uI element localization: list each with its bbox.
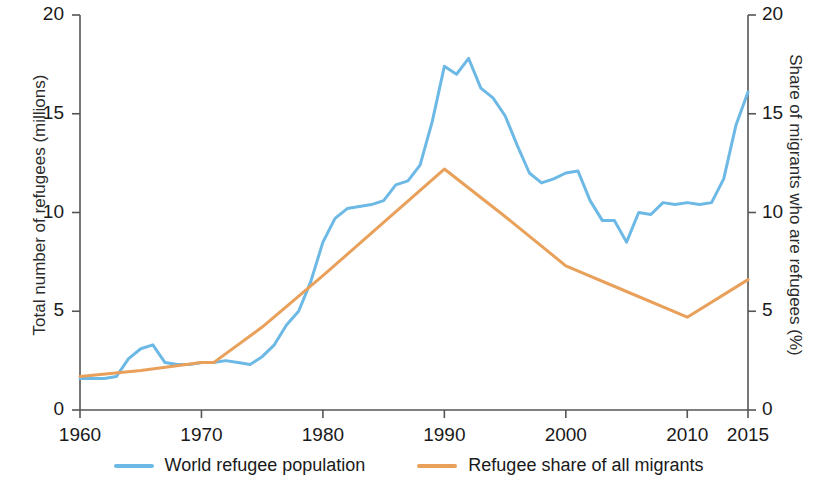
y-axis-right-tick-label: 20 (762, 3, 802, 25)
x-axis-tick-label: 1980 (288, 424, 358, 446)
chart-container: Total number of refugees (millions) Shar… (0, 0, 817, 486)
y-axis-left-tick-label: 5 (24, 299, 64, 321)
legend-label-refugee-share-of-all-migrants: Refugee share of all migrants (468, 455, 703, 476)
axis-ticks (72, 15, 756, 418)
y-axis-left-tick-label: 20 (24, 3, 64, 25)
data-series (80, 58, 748, 378)
y-axis-left-tick-label: 0 (24, 398, 64, 420)
y-axis-left-tick-label: 10 (24, 201, 64, 223)
chart-legend: World refugee population Refugee share o… (0, 455, 817, 476)
x-axis-tick-label: 2015 (713, 424, 783, 446)
legend-item-refugee-share-of-all-migrants[interactable]: Refugee share of all migrants (417, 455, 703, 476)
x-axis-tick-label: 2000 (531, 424, 601, 446)
legend-swatch-orange (417, 464, 457, 468)
legend-label-world-refugee-population: World refugee population (165, 455, 366, 476)
y-axis-right-tick-label: 15 (762, 102, 802, 124)
x-axis-tick-label: 1990 (409, 424, 479, 446)
y-axis-right-tick-label: 5 (762, 299, 802, 321)
legend-item-world-refugee-population[interactable]: World refugee population (114, 455, 366, 476)
y-axis-right-tick-label: 0 (762, 398, 802, 420)
legend-swatch-blue (114, 464, 154, 468)
x-axis-tick-label: 1970 (166, 424, 236, 446)
x-axis-tick-label: 2010 (652, 424, 722, 446)
x-axis-tick-label: 1960 (45, 424, 115, 446)
series-line-world-refugee-population (80, 58, 748, 378)
plot-area (0, 0, 817, 486)
y-axis-left-tick-label: 15 (24, 102, 64, 124)
y-axis-right-tick-label: 10 (762, 201, 802, 223)
series-line-refugee-share-of-all-migrants (80, 169, 748, 376)
